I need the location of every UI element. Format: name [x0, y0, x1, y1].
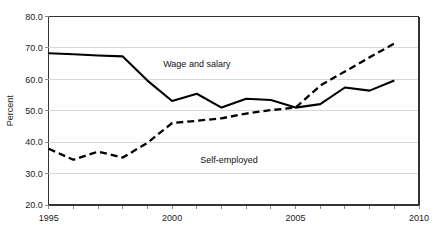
x-tick-label-2000: 2000 — [162, 213, 182, 223]
series-annotations: Wage and salarySelf-employed — [163, 59, 257, 165]
y-tick-label-20.0: 20.0 — [25, 200, 43, 210]
y-tick-label-80.0: 80.0 — [25, 12, 43, 22]
y-axis-tick-labels: 20.030.040.050.060.070.080.0 — [25, 12, 49, 211]
x-tickmarks — [49, 205, 419, 209]
y-tick-label-30.0: 30.0 — [25, 169, 43, 179]
x-axis-tick-labels: 1995200020052010 — [39, 213, 429, 223]
y-axis-title-label: Percent — [5, 95, 15, 127]
y-tick-label-60.0: 60.0 — [25, 75, 43, 85]
x-tick-label-1995: 1995 — [39, 213, 59, 223]
y-tick-label-50.0: 50.0 — [25, 106, 43, 116]
series-annotation-self-employed: Self-employed — [200, 155, 258, 165]
series-annotation-wage-and-salary: Wage and salary — [163, 59, 231, 69]
gridlines — [49, 17, 419, 206]
y-tick-label-70.0: 70.0 — [25, 43, 43, 53]
line-chart: 20.030.040.050.060.070.080.0 19952000200… — [0, 0, 438, 230]
chart-container: 20.030.040.050.060.070.080.0 19952000200… — [0, 0, 438, 230]
x-tick-label-2005: 2005 — [286, 213, 306, 223]
y-tick-label-40.0: 40.0 — [25, 137, 43, 147]
x-tick-label-2010: 2010 — [409, 213, 429, 223]
y-axis-title: Percent — [5, 95, 15, 127]
